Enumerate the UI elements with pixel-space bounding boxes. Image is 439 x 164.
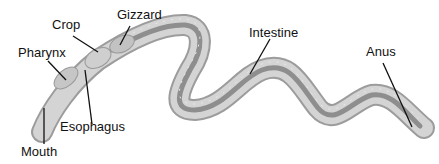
label-pharynx: Pharynx bbox=[18, 46, 66, 59]
label-intestine: Intestine bbox=[249, 26, 298, 39]
leader-crop bbox=[73, 36, 98, 52]
label-mouth: Mouth bbox=[21, 145, 57, 158]
worm-body-outer bbox=[42, 25, 424, 132]
label-crop: Crop bbox=[52, 18, 80, 31]
label-gizzard: Gizzard bbox=[117, 8, 162, 21]
earthworm-diagram: Pharynx Crop Gizzard Intestine Anus Esop… bbox=[0, 0, 439, 164]
label-anus: Anus bbox=[366, 45, 396, 58]
label-esophagus: Esophagus bbox=[60, 120, 125, 133]
